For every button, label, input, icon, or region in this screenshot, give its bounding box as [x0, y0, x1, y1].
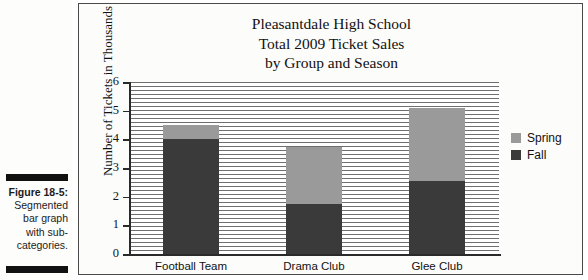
- chart-title-line-3: by Group and Season: [79, 53, 584, 73]
- bar-segment-fall: [163, 139, 219, 254]
- caption-line-4: categories.: [0, 239, 68, 252]
- y-axis-tick: 2: [123, 197, 129, 199]
- bar-group: [409, 82, 465, 254]
- legend-item: Spring: [511, 129, 562, 146]
- chart-title: Pleasantdale High School Total 2009 Tick…: [79, 14, 584, 73]
- y-axis-tick: 1: [123, 225, 129, 227]
- bar-group: [286, 82, 342, 254]
- plot-wrapper: 0123456 Football TeamDrama ClubGlee Club: [129, 82, 499, 254]
- caption-rule-bottom: [6, 266, 68, 273]
- legend-label: Spring: [527, 131, 562, 145]
- x-axis-category-label: Football Team: [121, 260, 261, 272]
- legend-swatch-fall: [511, 150, 521, 160]
- y-axis-tick: 5: [123, 111, 129, 113]
- bar-segment-fall: [409, 181, 465, 254]
- y-axis-tick-label: 5: [113, 103, 119, 118]
- figure-frame: Pleasantdale High School Total 2009 Tick…: [78, 3, 583, 275]
- y-axis-tick-label: 0: [113, 246, 119, 261]
- bar-segment-spring: [409, 108, 465, 181]
- chart-title-line-2: Total 2009 Ticket Sales: [79, 34, 584, 54]
- y-axis-tick-label: 1: [113, 217, 119, 232]
- chart-title-line-1: Pleasantdale High School: [79, 14, 584, 34]
- bar-group: [163, 82, 219, 254]
- y-axis-tick-label: 2: [113, 189, 119, 204]
- figure-caption-column: Figure 18-5: Segmented bar graph with su…: [0, 0, 72, 280]
- y-axis-tick: 3: [123, 168, 129, 170]
- figure-number: Figure 18-5:: [0, 186, 68, 199]
- caption-line-1: Segmented: [0, 199, 68, 212]
- caption-line-3: with sub-: [0, 226, 68, 239]
- bar-segment-spring: [163, 125, 219, 139]
- x-axis-category-label: Glee Club: [367, 260, 507, 272]
- legend-item: Fall: [511, 146, 562, 163]
- legend-swatch-spring: [511, 133, 521, 143]
- legend-label: Fall: [527, 148, 546, 162]
- x-axis-category-label: Drama Club: [244, 260, 384, 272]
- x-axis-line: [129, 254, 501, 256]
- y-axis-line: [129, 82, 131, 254]
- y-axis-tick-label: 4: [113, 131, 119, 146]
- bar-segment-spring: [286, 147, 342, 204]
- bar-segment-fall: [286, 204, 342, 254]
- chart-legend: SpringFall: [511, 129, 562, 163]
- caption-line-2: bar graph: [0, 212, 68, 225]
- y-axis-tick: 6: [123, 82, 129, 84]
- y-axis-tick-label: 6: [113, 74, 119, 89]
- y-axis-title: Number of Tickets in Thousands: [100, 1, 118, 181]
- y-axis-tick: 0: [123, 254, 129, 256]
- y-axis-tick-label: 3: [113, 160, 119, 175]
- figure-caption: Figure 18-5: Segmented bar graph with su…: [0, 186, 68, 252]
- y-axis-tick: 4: [123, 139, 129, 141]
- caption-rule-top: [6, 174, 68, 181]
